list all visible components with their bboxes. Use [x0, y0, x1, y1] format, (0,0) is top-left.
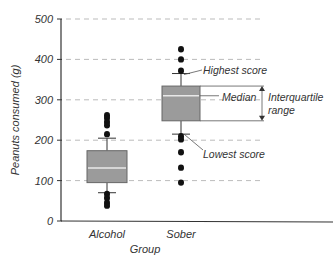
y-tick-label: 400	[35, 53, 54, 65]
arrow-down-icon	[259, 116, 265, 121]
outlier-point	[178, 164, 184, 170]
box-sober	[162, 46, 200, 186]
outlier-point	[178, 68, 184, 74]
y-axis-label: Peanuts consumed (g)	[9, 64, 21, 175]
outlier-point	[178, 149, 184, 155]
annotation-iqr-2: range	[268, 104, 295, 116]
x-tick-alcohol: Alcohol	[88, 228, 126, 240]
iqr-box	[162, 86, 200, 121]
highest-leader	[184, 70, 202, 75]
x-axis-line	[61, 221, 333, 222]
annotation-median: Median	[222, 91, 257, 103]
outlier-point	[104, 122, 110, 128]
outlier-point	[178, 56, 184, 62]
annotation-highest-score: Highest score	[203, 64, 267, 76]
annotation-iqr-1: Interquartile	[268, 91, 324, 103]
iqr-box	[87, 151, 127, 183]
annotation-lowest-score: Lowest score	[203, 148, 265, 160]
outlier-point	[178, 136, 184, 142]
box-plot-chart: 0100200300400500 Peanuts consumed (g) Gr…	[0, 0, 333, 266]
box-alcohol	[87, 112, 127, 209]
y-tick-label: 200	[34, 134, 54, 146]
outlier-point	[104, 202, 110, 208]
y-tick-label: 0	[47, 215, 54, 227]
arrow-up-icon	[259, 86, 265, 91]
y-tick-label: 300	[35, 94, 54, 106]
x-axis-label: Group	[130, 243, 161, 255]
lowest-leader	[184, 134, 203, 150]
boxes	[87, 46, 200, 209]
y-tick-label: 500	[35, 13, 54, 25]
y-tick-label: 100	[35, 175, 54, 187]
outlier-point	[178, 46, 184, 52]
outlier-point	[178, 179, 184, 185]
outlier-point	[104, 131, 110, 137]
x-tick-sober: Sober	[166, 228, 197, 240]
